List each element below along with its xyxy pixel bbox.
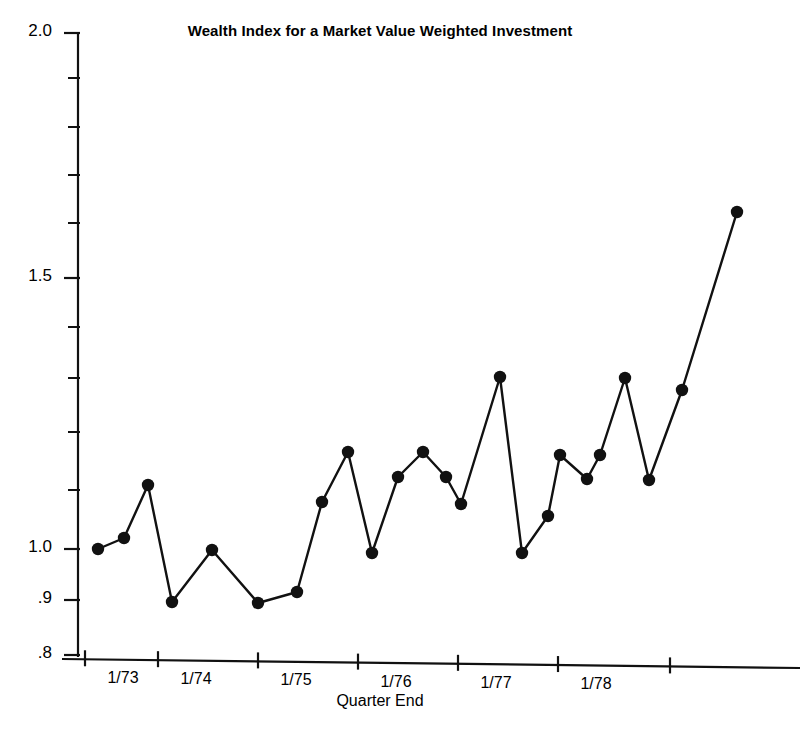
- data-point-marker: [417, 446, 429, 458]
- series-line: [98, 212, 737, 603]
- data-point-marker: [92, 543, 104, 555]
- x-axis-tick-label: 1/76: [366, 673, 426, 691]
- data-point-marker: [291, 586, 303, 598]
- x-axis-tick-label: 1/73: [93, 669, 153, 687]
- data-point-marker: [252, 597, 264, 609]
- data-point-marker: [581, 473, 593, 485]
- data-point-marker: [455, 498, 467, 510]
- data-point-marker: [342, 446, 354, 458]
- chart-figure: Wealth Index for a Market Value Weighted…: [0, 0, 804, 731]
- x-axis-line: [62, 659, 800, 668]
- data-point-marker: [366, 547, 378, 559]
- data-point-marker: [619, 372, 631, 384]
- data-point-marker: [554, 449, 566, 461]
- data-point-marker: [494, 371, 506, 383]
- x-axis-tick-label: 1/77: [466, 674, 526, 692]
- y-axis-tick-label: 2.0: [0, 21, 52, 41]
- x-axis-title: Quarter End: [0, 692, 804, 710]
- data-point-marker: [731, 206, 743, 218]
- data-point-marker: [542, 510, 554, 522]
- data-point-marker: [440, 471, 452, 483]
- data-point-marker: [166, 596, 178, 608]
- plot-area: [0, 0, 804, 731]
- data-point-marker: [142, 479, 154, 491]
- x-axis-tick-label: 1/74: [166, 670, 226, 688]
- x-axis-tick-label: 1/78: [566, 675, 626, 693]
- data-point-marker: [594, 449, 606, 461]
- y-axis-tick-label: 1.5: [0, 266, 52, 286]
- data-point-marker: [643, 474, 655, 486]
- y-axis-tick-label: .9: [0, 588, 52, 608]
- y-axis-tick-label: 1.0: [0, 537, 52, 557]
- data-point-marker: [118, 532, 130, 544]
- data-point-marker: [206, 544, 218, 556]
- data-point-marker: [316, 496, 328, 508]
- data-point-marker: [516, 547, 528, 559]
- axes: [62, 33, 800, 668]
- data-point-marker: [392, 471, 404, 483]
- data-point-marker: [676, 384, 688, 396]
- x-axis-title-text: Quarter End: [336, 692, 423, 710]
- y-axis-tick-label: .8: [0, 643, 52, 663]
- series-markers: [92, 206, 743, 609]
- x-axis-tick-label: 1/75: [266, 671, 326, 689]
